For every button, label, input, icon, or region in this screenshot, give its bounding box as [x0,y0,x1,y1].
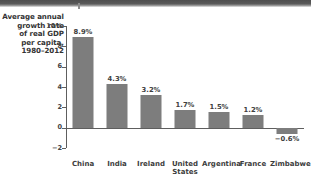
bar-slot[interactable]: 1.2% [236,26,270,148]
y-axis-tick-label: −2 [42,145,62,152]
x-axis-category-label-line: France [236,160,270,168]
bar[interactable] [277,128,298,134]
y-axis-tick-label: 0 [42,124,62,131]
x-axis-category-label: Zimbabwe [270,160,304,168]
bar-value-label: 3.2% [142,86,161,94]
bar-value-label: 4.3% [108,75,127,83]
bar-value-label: 1.2% [244,106,263,114]
bar-slot[interactable]: 1.5% [202,26,236,148]
bar[interactable] [141,95,162,128]
x-axis-category-label: India [100,160,134,168]
bar-value-label: 1.7% [176,101,195,109]
bar-value-label: 1.5% [210,103,229,111]
bar[interactable] [175,110,196,127]
x-axis-category-label: Argentina [202,160,236,168]
x-axis-category-label: France [236,160,270,168]
y-axis-tick-label: 2 [42,104,62,111]
bar-slot[interactable]: 8.9% [66,26,100,148]
bar-slot[interactable]: 1.7% [168,26,202,148]
y-axis-tick-labels: 10%86420−2 [40,26,62,148]
x-axis-category-label-line: India [100,160,134,168]
bar-value-label: 8.9% [74,28,93,36]
x-axis-category-label-line: China [66,160,100,168]
bar[interactable] [243,115,264,127]
bar[interactable] [73,37,94,127]
bar-slot[interactable]: 3.2% [134,26,168,148]
x-axis-category-label: China [66,160,100,168]
x-axis-category-label: Ireland [134,160,168,168]
plot-area: 8.9%4.3%3.2%1.7%1.5%1.2%−0.6% [66,26,304,148]
x-axis-category-label-line: Argentina [202,160,236,168]
y-axis-tick-label: 8 [42,43,62,50]
y-axis-tick-label: 10% [42,23,62,30]
x-axis-category-label-line: States [168,168,202,176]
bar-value-label: −0.6% [275,135,300,143]
x-axis-category-label-line: Zimbabwe [270,160,304,168]
y-axis-tick-label: 4 [42,84,62,91]
bar[interactable] [107,84,128,128]
x-axis-category-label-line: Ireland [134,160,168,168]
bar-slot[interactable]: −0.6% [270,26,304,148]
x-axis-category-labels: ChinaIndiaIrelandUnitedStatesArgentinaFr… [66,160,304,182]
bar-chart-figure: Average annualgrowth rateof real GDPper … [0,0,311,184]
y-axis-tick [62,148,66,149]
x-axis-category-label: UnitedStates [168,160,202,177]
bar-series: 8.9%4.3%3.2%1.7%1.5%1.2%−0.6% [66,26,304,148]
bar-slot[interactable]: 4.3% [100,26,134,148]
x-axis-category-label-line: United [168,160,202,168]
y-axis-tick-label: 6 [42,63,62,70]
bar[interactable] [209,112,230,127]
